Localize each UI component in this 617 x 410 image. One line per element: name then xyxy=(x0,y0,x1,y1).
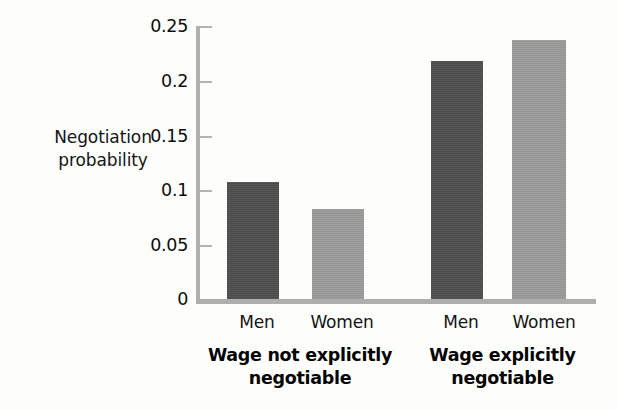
bar-group2-women xyxy=(512,40,566,299)
chart-figure: Negotiation probability 0.25 0.2 0.15 0.… xyxy=(0,0,617,410)
group-label-wage-explicitly-negotiable: Wage explicitly negotiable xyxy=(390,344,615,390)
y-tick-mark-0.1 xyxy=(200,190,212,192)
bar-group1-women xyxy=(312,209,364,299)
group2-label-line2: negotiable xyxy=(390,367,615,390)
y-axis-line xyxy=(196,26,200,300)
y-tick-label-0.15: 0.15 xyxy=(126,126,188,146)
y-tick-mark-0.25 xyxy=(200,26,212,28)
y-tick-label-0.05: 0.05 xyxy=(126,235,188,255)
y-tick-label-0.2: 0.2 xyxy=(126,71,188,91)
y-tick-mark-0.2 xyxy=(200,81,212,83)
y-tick-label-0.1: 0.1 xyxy=(126,180,188,200)
y-axis-label-line2: probability xyxy=(28,149,178,172)
y-tick-mark-0.15 xyxy=(200,136,212,138)
y-tick-label-0.25: 0.25 xyxy=(126,16,188,36)
y-tick-label-0: 0 xyxy=(126,289,188,309)
x-tick-label-group2-women: Women xyxy=(484,312,604,332)
bar-group2-men xyxy=(431,61,483,299)
bar-group1-men xyxy=(227,182,279,299)
plot-area xyxy=(196,26,596,302)
group2-label-line1: Wage explicitly xyxy=(429,345,575,365)
group1-label-line1: Wage not explicitly xyxy=(208,345,392,365)
x-axis-line xyxy=(196,299,596,304)
y-tick-mark-0.05 xyxy=(200,245,212,247)
x-tick-label-group1-women: Women xyxy=(282,312,402,332)
